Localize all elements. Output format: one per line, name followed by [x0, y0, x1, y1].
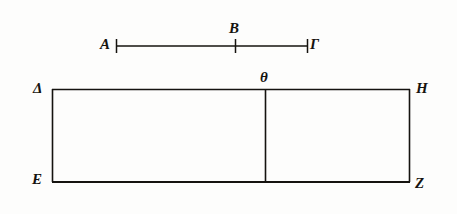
label-corner-h: H [416, 81, 428, 96]
label-point-b: B [229, 21, 239, 36]
geometric-figure: A B Γ Δ H E Z θ [0, 0, 457, 214]
label-point-gamma: Γ [310, 37, 319, 52]
label-point-theta: θ [260, 70, 268, 85]
label-corner-delta: Δ [33, 81, 42, 96]
label-point-a: A [100, 37, 110, 52]
segment-group [116, 39, 308, 53]
label-corner-z: Z [415, 176, 424, 191]
rectangle-group [52, 89, 410, 182]
label-corner-e: E [32, 172, 42, 187]
